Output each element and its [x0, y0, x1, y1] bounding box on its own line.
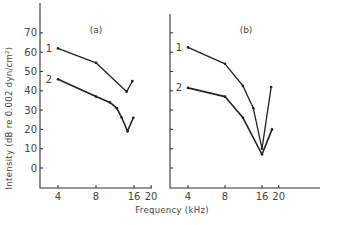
- data-point: [224, 95, 227, 98]
- series-2-line: [188, 88, 272, 155]
- data-point: [224, 62, 227, 65]
- data-point: [95, 95, 98, 98]
- data-point: [95, 62, 98, 65]
- x-tick-label: 20: [272, 191, 285, 202]
- y-tick-label: 20: [24, 124, 37, 135]
- data-point: [125, 90, 128, 93]
- data-point: [109, 101, 112, 104]
- data-point: [116, 107, 119, 110]
- series-1-label: 1: [176, 42, 182, 53]
- series-1-line: [188, 47, 271, 148]
- series-2-label: 2: [46, 74, 52, 85]
- x-tick-label: 16: [128, 191, 141, 202]
- panel-b-plot: 48162012: [170, 14, 320, 202]
- panel-b-label: (b): [240, 25, 253, 35]
- y-tick-label: 40: [24, 85, 37, 96]
- data-point: [270, 86, 273, 89]
- data-point: [187, 46, 190, 49]
- frequency-intensity-chart: Intensity (dB re 0.002 dyn/cm²) Frequenc…: [0, 0, 337, 225]
- series-1-label: 1: [46, 43, 52, 54]
- data-point: [126, 130, 129, 133]
- y-axis-label: Intensity (dB re 0.002 dyn/cm²): [4, 47, 14, 190]
- x-tick-label: 8: [222, 191, 228, 202]
- data-point: [252, 107, 255, 110]
- series-1-line: [58, 48, 132, 92]
- data-point: [131, 80, 134, 83]
- y-tick-label: 10: [24, 143, 37, 154]
- x-tick-label: 4: [185, 191, 191, 202]
- data-point: [187, 87, 190, 90]
- data-point: [242, 117, 245, 120]
- y-tick-label: 60: [24, 47, 37, 58]
- x-tick-label: 8: [93, 191, 99, 202]
- data-point: [271, 128, 274, 131]
- y-tick-label: 70: [24, 27, 37, 38]
- data-point: [132, 117, 135, 120]
- x-tick-label: 16: [256, 191, 269, 202]
- x-tick-label: 4: [55, 191, 61, 202]
- data-point: [57, 78, 60, 81]
- y-tick-label: 0: [31, 163, 37, 174]
- y-tick-label: 30: [24, 105, 37, 116]
- x-axis-label: Frequency (kHz): [135, 205, 209, 215]
- data-point: [120, 117, 123, 120]
- series-2-label: 2: [176, 82, 182, 93]
- x-tick-label: 20: [145, 191, 158, 202]
- y-tick-label: 50: [24, 66, 37, 77]
- axis-lines: [170, 14, 320, 188]
- data-point: [261, 153, 264, 156]
- data-point: [57, 47, 60, 50]
- data-point: [261, 147, 264, 150]
- data-point: [242, 85, 245, 88]
- panel-a-label: (a): [90, 25, 103, 35]
